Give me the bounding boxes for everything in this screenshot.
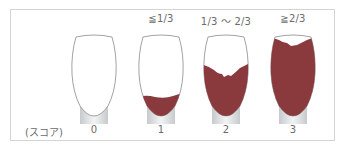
range-label-score-3: ≧2/3: [280, 13, 305, 24]
range-label-score-1: ≦1/3: [148, 13, 173, 24]
tooth-clean-icon: [68, 34, 120, 124]
score-caption: (スコア): [25, 124, 63, 139]
score-1: 1: [158, 124, 164, 135]
score-2: 2: [223, 124, 229, 135]
tooth-stain-low-icon: [135, 34, 187, 124]
range-label-score-2: 1/3 ～ 2/3: [201, 13, 251, 28]
tooth-score-2: [200, 34, 252, 124]
tooth-score-0: [68, 34, 120, 124]
score-3: 3: [290, 124, 296, 135]
tooth-stain-high-icon: [267, 34, 319, 124]
score-0: 0: [91, 124, 97, 135]
tooth-stain-medium-icon: [200, 34, 252, 124]
tooth-score-1: [135, 34, 187, 124]
tooth-score-3: [267, 34, 319, 124]
